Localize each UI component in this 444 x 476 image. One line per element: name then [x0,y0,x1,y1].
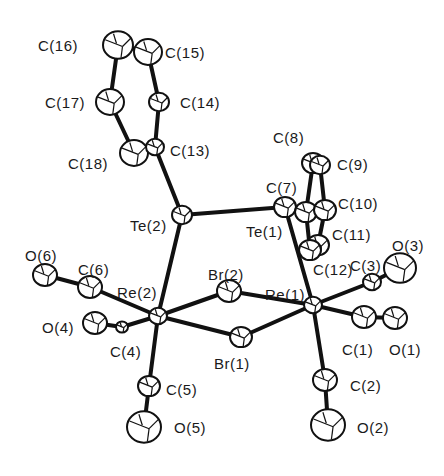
atom-label-te1: Te(1) [246,224,283,239]
atom-label-br1: Br(1) [214,356,250,371]
atom-re2 [149,308,167,325]
atom-label-c10: C(10) [338,196,378,211]
atom-label-o1: O(1) [389,342,421,357]
atom-c4 [116,321,128,332]
atom-label-o4: O(4) [42,320,74,335]
atom-label-c5: C(5) [166,382,197,397]
atom-label-re2: Re(2) [117,285,157,300]
atom-label-c2: C(2) [350,378,381,393]
atom-label-br2: Br(2) [208,267,244,282]
atom-re1 [304,297,322,314]
atom-te2 [172,206,192,224]
atom-c15 [134,39,162,65]
atom-c12 [299,240,321,260]
atom-o3 [384,253,416,282]
atom-c3 [363,274,381,291]
ortep-diagram: C(16)C(15)C(17)C(14)C(18)C(13)Te(2)Te(1)… [0,0,444,476]
atom-label-c16: C(16) [38,38,78,53]
atom-label-o5: O(5) [174,420,206,435]
atom-c14 [149,93,169,111]
atom-label-c4: C(4) [110,344,141,359]
atom-c13 [146,139,164,156]
atom-o4 [83,312,107,334]
atom-c2 [313,369,337,391]
atom-label-c3: C(3) [350,258,381,273]
atom-c9 [310,156,330,174]
atom-c1 [352,306,376,328]
atom-label-c8: C(8) [273,130,304,145]
atom-o1 [383,307,407,329]
atom-label-c7: C(7) [266,180,297,195]
atom-label-o6: O(6) [25,248,57,263]
atom-o6 [33,264,57,286]
atom-br1 [230,327,252,347]
atom-c6 [78,276,102,298]
atom-label-o3: O(3) [392,238,424,253]
atom-c10 [314,200,336,220]
atom-c5 [138,376,160,396]
atom-label-c6: C(6) [78,262,109,277]
atom-label-c17: C(17) [45,95,85,110]
atom-label-c18: C(18) [68,156,108,171]
atom-c16 [103,31,133,59]
atom-label-te2: Te(2) [130,218,167,233]
atom-label-o2: O(2) [357,420,389,435]
atom-label-c1: C(1) [342,342,373,357]
atom-label-c14: C(14) [180,95,220,110]
atom-label-c15: C(15) [165,45,205,60]
atom-label-c13: C(13) [170,143,210,158]
atom-label-c12: C(12) [313,262,353,277]
atom-label-c9: C(9) [337,157,368,172]
atoms-layer [0,0,444,476]
atom-o5 [127,411,161,442]
atom-label-re1: Re(1) [265,287,305,302]
atom-o2 [311,409,345,440]
atom-c17 [96,89,124,115]
atom-te1 [274,197,296,217]
atom-br2 [217,280,241,302]
atom-c18 [120,140,148,166]
atom-label-c11: C(11) [332,227,371,242]
